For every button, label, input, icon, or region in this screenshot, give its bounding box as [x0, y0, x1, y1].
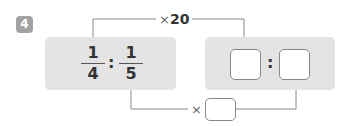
top-multiplier-value: 20 — [170, 11, 189, 27]
fraction-second-denominator: 5 — [121, 66, 141, 82]
fraction-second-numerator: 1 — [121, 45, 141, 61]
multiply-symbol: × — [191, 102, 202, 117]
answer-ratio-panel: : — [205, 37, 335, 90]
answer-blank-first[interactable] — [230, 49, 261, 80]
fraction-first: 1 4 — [83, 45, 103, 82]
ratio-colon: : — [267, 53, 273, 72]
multiply-symbol: × — [159, 12, 170, 27]
bottom-multiplier-blank[interactable] — [205, 98, 236, 121]
given-ratio-panel: 1 4 : 1 5 — [45, 37, 176, 90]
fraction-first-denominator: 4 — [83, 66, 103, 82]
ratio-colon: : — [108, 53, 114, 72]
bottom-operation-label: × — [188, 101, 205, 118]
top-operation-label: ×20 — [156, 11, 192, 28]
fraction-second: 1 5 — [121, 45, 141, 82]
answer-blank-second[interactable] — [279, 49, 310, 80]
fraction-first-numerator: 1 — [83, 45, 103, 61]
